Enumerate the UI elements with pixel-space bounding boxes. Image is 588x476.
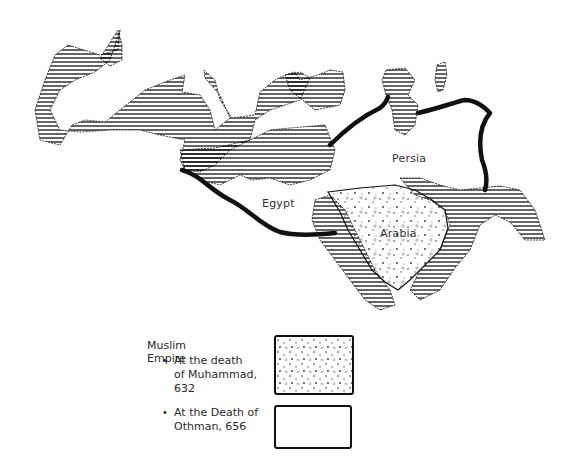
label-persia: Persia xyxy=(392,152,426,165)
map-illustration xyxy=(0,0,588,330)
land-hatched xyxy=(35,30,545,310)
bullet-icon: • xyxy=(162,354,168,368)
swatch-blank xyxy=(274,405,352,449)
legend-item-line: 632 xyxy=(174,382,264,396)
legend-item-line: At the death xyxy=(174,354,264,368)
legend-item-line: of Muhammad, xyxy=(174,368,264,382)
label-arabia: Arabia xyxy=(380,227,417,240)
legend-item-line: Othman, 656 xyxy=(174,420,264,434)
swatch-stippled xyxy=(274,335,354,395)
legend-item-line: At the Death of xyxy=(174,406,264,420)
label-egypt: Egypt xyxy=(262,197,295,210)
bullet-icon: • xyxy=(162,406,168,420)
